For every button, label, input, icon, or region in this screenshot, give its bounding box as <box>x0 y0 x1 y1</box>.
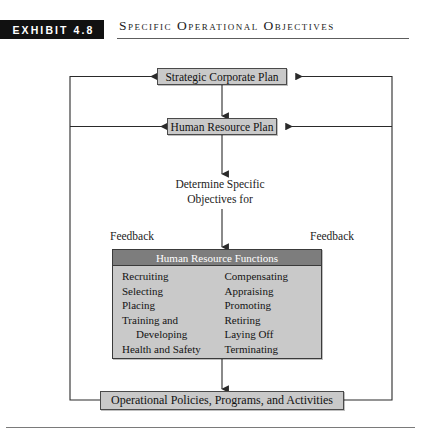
feedback-label-right: Feedback <box>310 230 354 242</box>
hr-function-item: Developing <box>122 327 219 342</box>
hr-function-item: Health and Safety <box>122 342 219 357</box>
determine-objectives-text: Determine Specific Objectives for <box>120 177 320 207</box>
connector-lines <box>0 0 421 441</box>
node-label: Operational Policies, Programs, and Acti… <box>111 393 333 408</box>
panel-header-label: Human Resource Functions <box>113 250 321 266</box>
hr-function-item: Terminating <box>225 342 322 357</box>
feedback-label-left: Feedback <box>110 230 154 242</box>
determine-line-2: Objectives for <box>120 192 320 207</box>
flow-diagram: Strategic Corporate Plan Human Resource … <box>0 0 421 441</box>
hr-functions-left-column: RecruitingSelectingPlacingTraining andDe… <box>113 269 219 358</box>
hr-function-item: Retiring <box>225 313 322 328</box>
hr-function-item: Appraising <box>225 284 322 299</box>
hr-function-item: Training and <box>122 313 219 328</box>
node-strategic-corporate-plan[interactable]: Strategic Corporate Plan <box>157 68 287 85</box>
hr-function-item: Laying Off <box>225 327 322 342</box>
determine-line-1: Determine Specific <box>120 177 320 192</box>
hr-function-item: Selecting <box>122 284 219 299</box>
node-operational-policies[interactable]: Operational Policies, Programs, and Acti… <box>100 391 344 410</box>
node-label: Strategic Corporate Plan <box>165 71 278 83</box>
panel-human-resource-functions[interactable]: Human Resource Functions RecruitingSelec… <box>112 249 322 359</box>
footer-divider <box>6 427 415 428</box>
node-label: Human Resource Plan <box>171 121 274 133</box>
panel-body: RecruitingSelectingPlacingTraining andDe… <box>113 266 321 358</box>
hr-function-item: Placing <box>122 298 219 313</box>
hr-functions-right-column: CompensatingAppraisingPromotingRetiringL… <box>219 269 322 358</box>
hr-function-item: Recruiting <box>122 269 219 284</box>
node-human-resource-plan[interactable]: Human Resource Plan <box>167 118 277 135</box>
hr-function-item: Promoting <box>225 298 322 313</box>
hr-function-item: Compensating <box>225 269 322 284</box>
